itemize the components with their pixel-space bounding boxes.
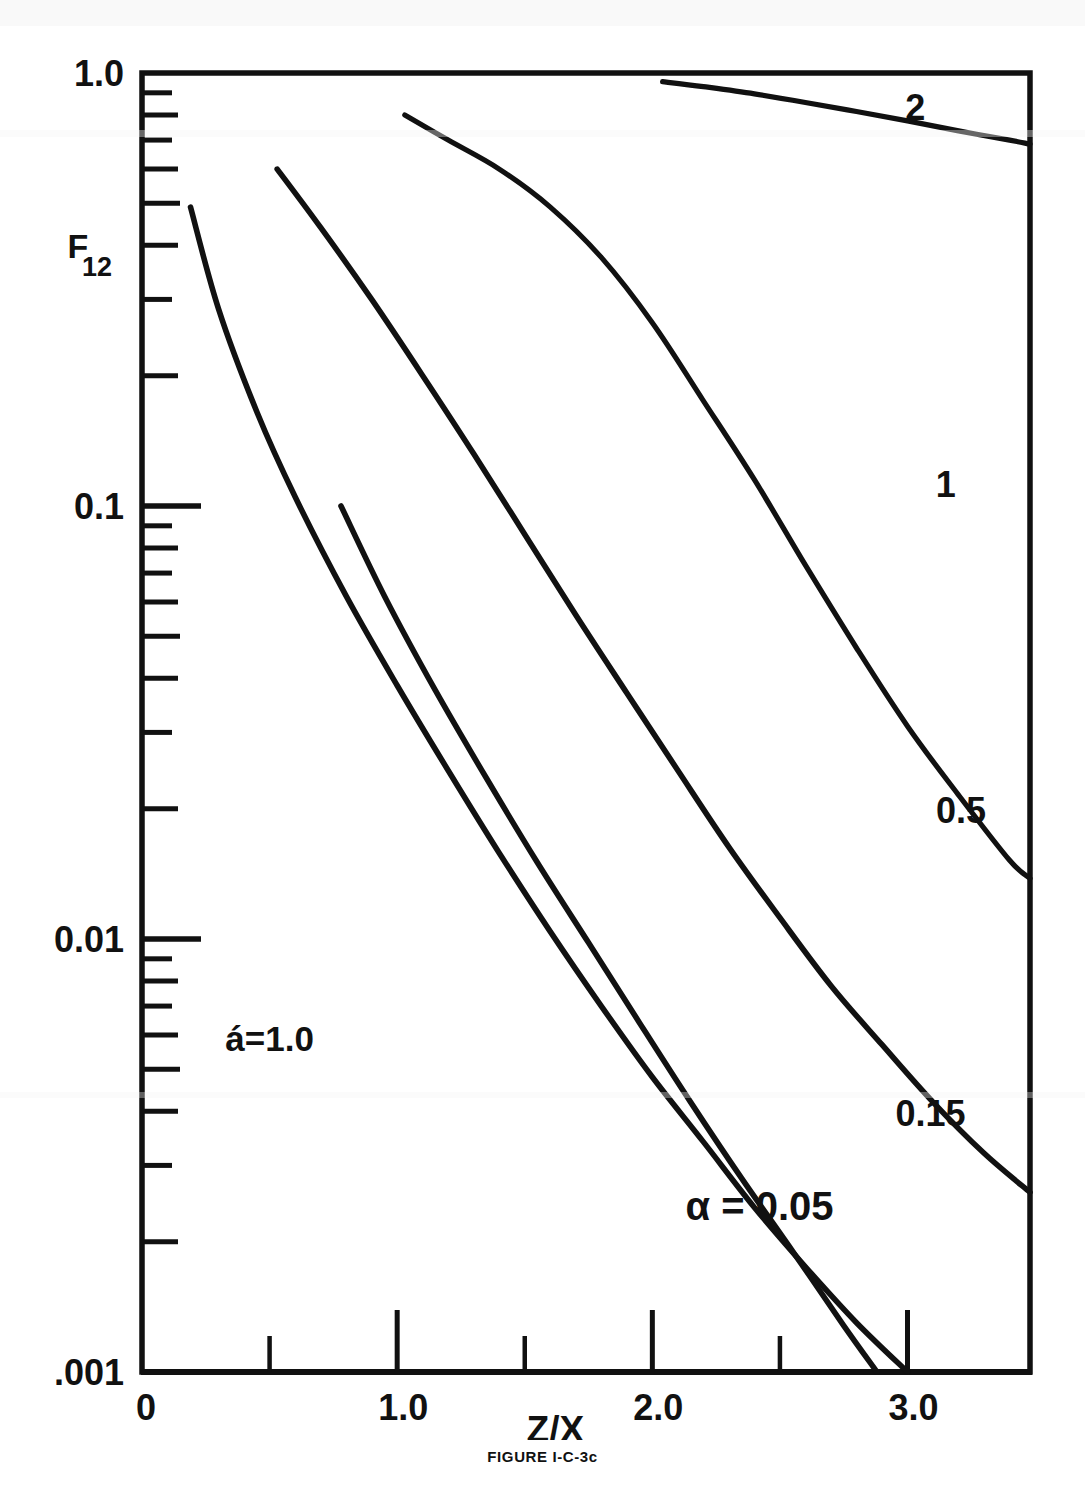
y-tick-label-0: 1.0 (74, 53, 124, 94)
y-axis-ticks (142, 93, 201, 1372)
x-axis-title: Z/X (527, 1409, 585, 1440)
scan-artifact-top (0, 0, 1085, 26)
chart-plot-area: 1.00.10.01.001 01.02.03.0 210.50.15α = 0… (0, 0, 1085, 1440)
annotation-alpha-prime: á=1.0 (225, 1019, 314, 1058)
series-label-0.5: 0.5 (936, 790, 986, 831)
figure-container: 1.00.10.01.001 01.02.03.0 210.50.15α = 0… (0, 0, 1085, 1512)
data-series-curves (191, 82, 1031, 1372)
axis-titles: Z/XF12 (68, 227, 585, 1440)
x-tick-label-0: 0 (136, 1387, 156, 1428)
x-tick-label-1: 1.0 (378, 1387, 428, 1428)
y-tick-label-2: 0.01 (54, 919, 124, 960)
x-axis-ticks (270, 1310, 908, 1372)
series-label-0.05: α = 0.05 (686, 1184, 834, 1228)
y-tick-label-3: .001 (54, 1352, 124, 1393)
axis-frame (141, 73, 1032, 1372)
x-tick-label-2: 2.0 (633, 1387, 683, 1428)
y-axis-title-sub: 12 (82, 252, 112, 282)
series-labels: 210.50.15α = 0.05 (686, 87, 987, 1228)
scan-artifact-band-2 (0, 1092, 1085, 1098)
figure-caption: FIGURE I-C-3c (0, 1448, 1085, 1465)
series-label-0.15: 0.15 (895, 1093, 965, 1134)
y-tick-label-1: 0.1 (74, 486, 124, 527)
x-tick-label-3: 3.0 (888, 1387, 938, 1428)
series-label-1: 1 (936, 464, 956, 505)
chart-annotations: á=1.0 (225, 1019, 314, 1058)
series-label-2: 2 (905, 87, 925, 128)
scan-artifact-band (0, 130, 1085, 137)
